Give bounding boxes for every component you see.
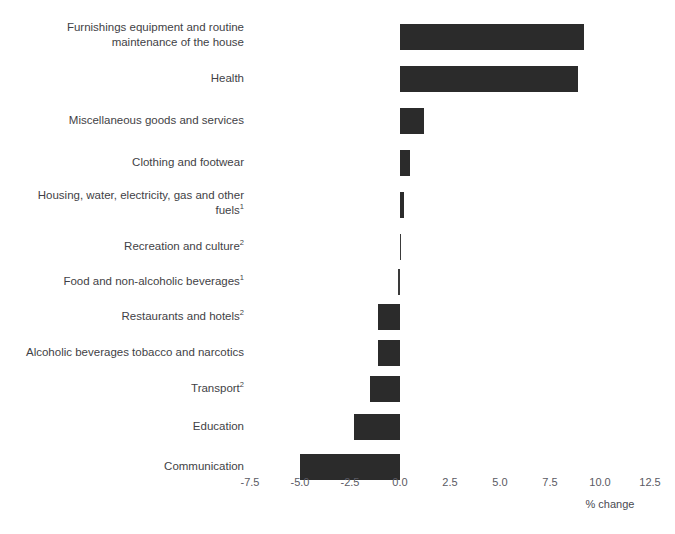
bar[interactable] xyxy=(398,269,400,295)
bar[interactable] xyxy=(354,414,400,440)
x-axis-tick: 5.0 xyxy=(492,476,507,488)
x-axis-tick: 7.5 xyxy=(542,476,557,488)
bar[interactable] xyxy=(400,66,578,92)
label-footnote-marker: 1 xyxy=(240,202,244,211)
category-label: Health xyxy=(0,71,244,86)
x-axis: -7.5-5.0-2.50.02.55.07.510.012.5 xyxy=(0,476,675,492)
category-label: Clothing and footwear xyxy=(0,155,244,170)
chart-title xyxy=(0,0,675,3)
x-axis-tick: 12.5 xyxy=(639,476,660,488)
bar-row: Food and non-alcoholic beverages1 xyxy=(0,269,675,295)
bar-row: Transport2 xyxy=(0,376,675,402)
x-axis-tick: 2.5 xyxy=(442,476,457,488)
category-label: Alcoholic beverages tobacco and narcotic… xyxy=(0,345,244,360)
category-label: Restaurants and hotels2 xyxy=(0,309,244,324)
bar-row: Furnishings equipment and routinemainten… xyxy=(0,24,675,50)
bar[interactable] xyxy=(400,234,401,260)
bar-row: Miscellaneous goods and services xyxy=(0,108,675,134)
category-label: Recreation and culture2 xyxy=(0,239,244,254)
category-label: Transport2 xyxy=(0,381,244,396)
x-axis-tick: -5.0 xyxy=(291,476,310,488)
bar-row: Education xyxy=(0,414,675,440)
category-label: Food and non-alcoholic beverages1 xyxy=(0,274,244,289)
plot-area: Furnishings equipment and routinemainten… xyxy=(0,14,675,472)
x-axis-tick: 10.0 xyxy=(589,476,610,488)
bar[interactable] xyxy=(378,340,400,366)
bar[interactable] xyxy=(400,24,584,50)
bar[interactable] xyxy=(400,108,424,134)
x-axis-tick: 0.0 xyxy=(392,476,407,488)
x-axis-tick: -7.5 xyxy=(241,476,260,488)
x-axis-tick: -2.5 xyxy=(341,476,360,488)
bar[interactable] xyxy=(400,150,410,176)
category-label: Communication xyxy=(0,459,244,474)
category-label: Furnishings equipment and routinemainten… xyxy=(0,20,244,49)
bar-row: Housing, water, electricity, gas and oth… xyxy=(0,192,675,218)
category-label: Miscellaneous goods and services xyxy=(0,113,244,128)
label-footnote-marker: 2 xyxy=(240,238,244,247)
bar-row: Restaurants and hotels2 xyxy=(0,304,675,330)
bar-row: Alcoholic beverages tobacco and narcotic… xyxy=(0,340,675,366)
bar[interactable] xyxy=(370,376,400,402)
label-footnote-marker: 1 xyxy=(240,273,244,282)
bar-row: Clothing and footwear xyxy=(0,150,675,176)
category-label: Housing, water, electricity, gas and oth… xyxy=(0,188,244,217)
label-footnote-marker: 2 xyxy=(240,308,244,317)
label-footnote-marker: 2 xyxy=(240,380,244,389)
bar-row: Recreation and culture2 xyxy=(0,234,675,260)
category-label: Education xyxy=(0,419,244,434)
bar[interactable] xyxy=(400,192,404,218)
bar[interactable] xyxy=(378,304,400,330)
bar-row: Health xyxy=(0,66,675,92)
x-axis-title: % change xyxy=(586,498,635,510)
